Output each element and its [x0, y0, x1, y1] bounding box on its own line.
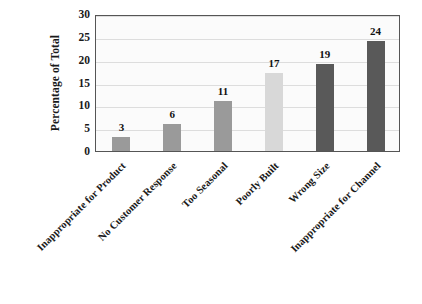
y-axis-tick-labels: 051015202530 — [62, 15, 90, 152]
bar-slot: 11 — [198, 16, 249, 151]
bar-slot: 24 — [350, 16, 401, 151]
bar[interactable] — [367, 41, 385, 151]
x-axis-label: Poorly Built — [0, 160, 281, 304]
bar-value-label: 24 — [370, 26, 381, 37]
y-tick-label: 30 — [62, 9, 90, 21]
y-tick-label: 10 — [62, 101, 90, 113]
x-axis-category-labels: Inappropriate for ProductNo Customer Res… — [0, 152, 422, 304]
bar[interactable] — [163, 124, 181, 151]
plot-inner: 3611171924 — [96, 16, 399, 151]
plot-area: 3611171924 — [95, 15, 400, 152]
bar-value-label: 3 — [119, 122, 125, 133]
bar-value-label: 6 — [169, 109, 175, 120]
bars-layer: 3611171924 — [96, 16, 399, 151]
bar[interactable] — [265, 73, 283, 151]
bar[interactable] — [112, 137, 130, 151]
bar[interactable] — [214, 101, 232, 151]
bar-value-label: 19 — [319, 49, 330, 60]
bar-chart: Percentage of Total 051015202530 3611171… — [0, 0, 422, 304]
bar-slot: 19 — [299, 16, 350, 151]
y-tick-label: 25 — [62, 32, 90, 44]
y-tick-label: 15 — [62, 78, 90, 90]
bar-slot: 6 — [147, 16, 198, 151]
x-axis-label: Too Seasonal — [0, 160, 230, 304]
y-tick-label: 20 — [62, 55, 90, 67]
y-tick-label: 5 — [62, 123, 90, 135]
bar-value-label: 17 — [268, 58, 279, 69]
bar-slot: 3 — [96, 16, 147, 151]
bar-value-label: 11 — [218, 86, 228, 97]
bar-slot: 17 — [249, 16, 300, 151]
bar[interactable] — [316, 64, 334, 151]
